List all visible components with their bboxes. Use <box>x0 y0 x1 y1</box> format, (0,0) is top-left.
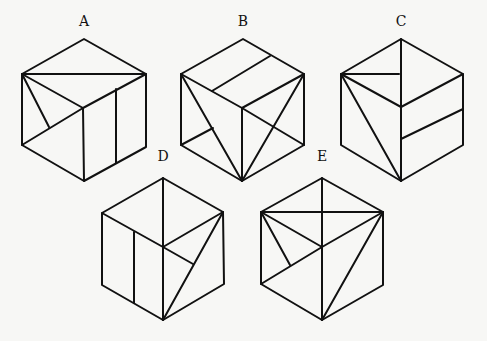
cube-line <box>83 74 146 108</box>
cube-d <box>102 178 224 320</box>
cube-line <box>261 247 322 284</box>
cube-figure <box>0 0 487 341</box>
cube-line <box>242 108 304 145</box>
cube-label-c: C <box>396 13 407 29</box>
cube-label-a: A <box>79 13 89 29</box>
cube-e <box>261 178 383 320</box>
cube-a <box>22 39 146 181</box>
cube-line <box>212 56 270 91</box>
cube-line <box>163 247 193 264</box>
cube-line <box>22 108 83 145</box>
cube-line <box>102 213 163 247</box>
cube-label-b: B <box>238 13 248 29</box>
cube-line <box>401 74 463 107</box>
cube-line <box>322 212 383 320</box>
cube-line <box>401 109 463 139</box>
cube-line <box>163 212 223 320</box>
cube-line <box>83 108 84 181</box>
cube-line <box>181 128 213 145</box>
cube-c <box>341 39 463 181</box>
cube-b <box>181 39 304 181</box>
cube-label-e: E <box>317 148 327 164</box>
cube-label-d: D <box>157 148 168 164</box>
